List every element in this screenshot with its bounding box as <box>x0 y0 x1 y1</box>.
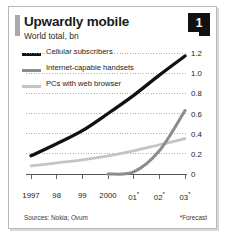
figure-number-badge: 1 <box>188 13 210 32</box>
y-axis-tick-1: 1.0 <box>191 69 202 78</box>
chart-canvas <box>25 49 187 188</box>
y-axis-tick-0: 1.2 <box>191 49 202 58</box>
y-axis-tick-5: 0.2 <box>191 149 202 158</box>
plot-area <box>25 49 187 188</box>
x-axis-tick-3: 2000 <box>99 191 116 200</box>
sources-note: Sources: Nokia; Ovum <box>24 214 88 221</box>
page-title: Upwardly mobile <box>24 14 129 29</box>
chart-figure: Upwardly mobile World total, bn 1 Cellul… <box>8 6 217 229</box>
x-axis-tick-0: 1997 <box>22 191 39 200</box>
x-axis-tick-2: 99 <box>78 191 87 200</box>
y-axis-tick-6: 0 <box>191 170 195 179</box>
figure-badge-flag <box>199 32 210 36</box>
x-axis-tick-5: 02* <box>154 191 165 202</box>
y-axis-labels: 1.21.00.80.60.40.20 <box>191 43 217 195</box>
y-axis-tick-3: 0.6 <box>191 109 202 118</box>
x-axis-tick-4: 01* <box>128 191 139 202</box>
y-axis-tick-2: 0.8 <box>191 89 202 98</box>
title-accent-bar <box>15 15 20 36</box>
chart-subtitle: World total, bn <box>24 31 79 41</box>
x-axis-tick-6: 03* <box>179 191 190 202</box>
forecast-note: *Forecast <box>180 214 207 221</box>
x-axis-labels: 19979899200001*02*03* <box>25 191 193 205</box>
x-axis-tick-1: 98 <box>52 191 61 200</box>
y-axis-tick-4: 0.4 <box>191 129 202 138</box>
